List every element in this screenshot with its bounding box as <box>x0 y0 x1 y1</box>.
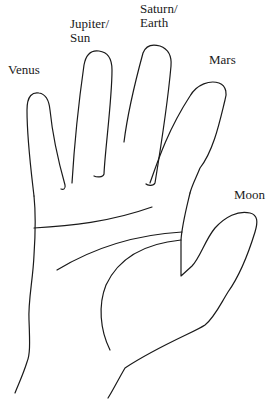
heart-line <box>34 207 152 228</box>
label-saturn-line2: Earth <box>140 16 178 30</box>
life-line <box>101 240 181 350</box>
label-saturn-earth: Saturn/ Earth <box>140 2 178 30</box>
label-mars: Mars <box>209 53 236 67</box>
finger-jupiter-sun <box>72 51 112 183</box>
label-jupiter-line2: Sun <box>70 31 109 45</box>
label-moon: Moon <box>234 188 265 202</box>
head-line <box>57 232 182 270</box>
finger-saturn-earth <box>124 45 171 185</box>
finger-mars <box>150 82 226 193</box>
hand-diagram: Venus Jupiter/ Sun Saturn/ Earth Mars Mo… <box>0 0 277 405</box>
palm-right-edge <box>108 193 257 398</box>
label-venus: Venus <box>8 63 40 77</box>
label-jupiter-sun: Jupiter/ Sun <box>70 17 109 45</box>
label-saturn-line1: Saturn/ <box>140 2 178 16</box>
palm-left-edge <box>15 196 35 393</box>
finger-venus <box>27 93 65 196</box>
label-jupiter-line1: Jupiter/ <box>70 17 109 31</box>
